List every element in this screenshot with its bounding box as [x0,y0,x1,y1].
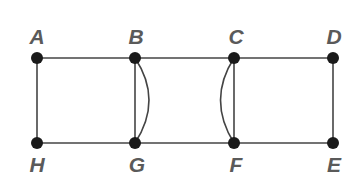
graph-diagram: A B C D H G F E [0,0,362,185]
label-b: B [128,25,143,48]
node-b [129,52,141,64]
label-d: D [326,25,341,48]
label-c: C [228,25,244,48]
label-g: G [129,153,145,176]
node-c [228,52,240,64]
node-e [327,137,339,149]
label-h: H [29,153,45,176]
label-f: F [230,153,244,176]
labels: A B C D H G F E [28,25,342,176]
label-a: A [28,25,44,48]
label-e: E [327,153,342,176]
edge-c-f-curved [221,58,235,143]
node-h [31,137,43,149]
node-g [129,137,141,149]
node-d [327,52,339,64]
edge-b-g-curved [135,58,149,143]
node-f [228,137,240,149]
edges [37,58,333,143]
node-a [31,52,43,64]
nodes [31,52,339,149]
